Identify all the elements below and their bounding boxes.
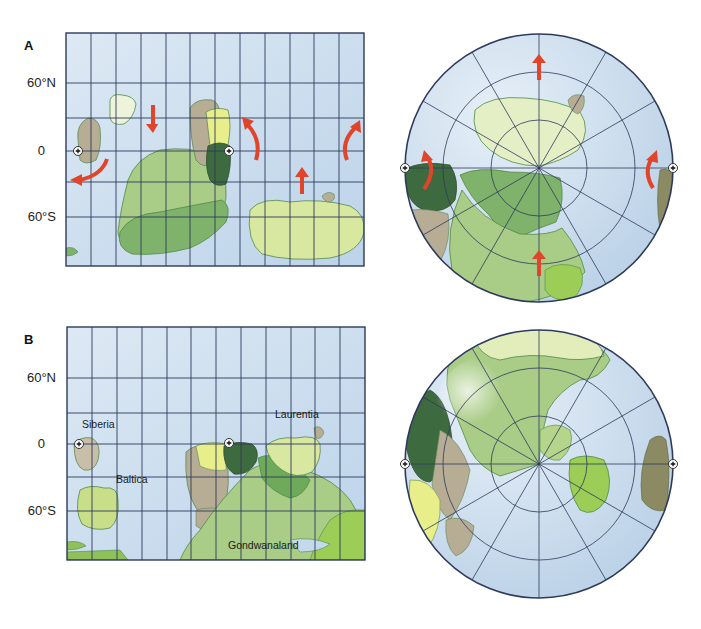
globe-b	[401, 327, 678, 598]
rotation-pole-icon	[401, 164, 410, 173]
figure-canvas	[0, 0, 701, 629]
rotation-pole-icon	[401, 460, 410, 469]
map-a	[66, 33, 364, 266]
rotation-pole-icon	[225, 147, 234, 156]
rotation-pole-icon	[74, 147, 83, 156]
label-baltica: Baltica	[116, 473, 148, 485]
rotation-pole-icon	[75, 440, 84, 449]
label-siberia: Siberia	[82, 418, 115, 430]
map-b	[67, 327, 365, 560]
globe-a	[401, 34, 678, 302]
label-gondwanaland: Gondwanaland	[228, 539, 299, 551]
rotation-pole-icon	[669, 164, 678, 173]
rotation-pole-icon	[225, 439, 234, 448]
label-laurentia: Laurentia	[275, 408, 319, 420]
rotation-pole-icon	[669, 460, 678, 469]
